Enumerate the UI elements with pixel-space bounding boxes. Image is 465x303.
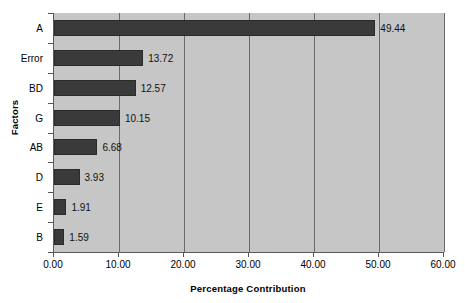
x-axis-title: Percentage Contribution [53, 283, 443, 294]
x-axis-tick-label: 40.00 [300, 259, 325, 270]
x-axis-tick-mark [118, 253, 119, 257]
bar-row[interactable]: 1.91 [54, 199, 444, 215]
x-axis-tick-mark [443, 253, 444, 257]
y-axis-tick-label: A [36, 22, 43, 33]
bar[interactable] [54, 139, 97, 155]
bar-row[interactable]: 13.72 [54, 50, 444, 66]
y-axis-tick-label: B [36, 232, 43, 243]
y-axis-tick-label: E [36, 202, 43, 213]
x-axis-tick-mark [313, 253, 314, 257]
x-axis-tick-mark [248, 253, 249, 257]
bar[interactable] [54, 169, 80, 185]
x-axis-tick-label: 50.00 [365, 259, 390, 270]
x-axis-tick-mark [378, 253, 379, 257]
bar-value-label: 1.59 [69, 232, 88, 243]
bar[interactable] [54, 80, 136, 96]
y-axis-tick-mark [48, 103, 53, 104]
bar-row[interactable]: 6.68 [54, 139, 444, 155]
bar-row[interactable]: 1.59 [54, 229, 444, 245]
y-axis-tick-labels: AErrorBDGABDEB [0, 13, 48, 252]
y-axis-tick-mark [48, 252, 53, 253]
bar-value-label: 10.15 [125, 112, 150, 123]
bar-value-label: 6.68 [102, 142, 121, 153]
bar-value-label: 49.44 [380, 22, 405, 33]
x-axis-tick-label: 10.00 [105, 259, 130, 270]
x-axis-tick-label: 30.00 [235, 259, 260, 270]
x-axis-tick-mark [183, 253, 184, 257]
y-axis-tick-mark [48, 133, 53, 134]
y-axis-tick-mark [48, 222, 53, 223]
bar-value-label: 12.57 [141, 82, 166, 93]
x-axis-tick-label: 20.00 [170, 259, 195, 270]
y-axis-tick-label: AB [30, 142, 43, 153]
bar-value-label: 13.72 [148, 52, 173, 63]
bar-row[interactable]: 10.15 [54, 110, 444, 126]
y-axis-tick-label: G [35, 112, 43, 123]
bar[interactable] [54, 229, 64, 245]
y-axis-tick-label: BD [29, 82, 43, 93]
x-axis-tick-label: 0.00 [43, 259, 62, 270]
y-axis-tick-mark [48, 13, 53, 14]
bar-row[interactable]: 49.44 [54, 20, 444, 36]
gridline [444, 13, 445, 252]
x-axis-tick-mark [53, 253, 54, 257]
bar-value-label: 3.93 [85, 172, 104, 183]
bar[interactable] [54, 50, 143, 66]
y-axis-tick-mark [48, 43, 53, 44]
y-axis-tick-mark [48, 73, 53, 74]
bar-chart: Factors AErrorBDGABDEB 49.4413.7212.5710… [0, 0, 465, 303]
bar-row[interactable]: 3.93 [54, 169, 444, 185]
plot-area: 49.4413.7212.5710.156.683.931.911.59 [53, 13, 444, 253]
x-axis-tick-label: 60.00 [430, 259, 455, 270]
y-axis-tick-label: D [36, 172, 43, 183]
y-axis-tick-label: Error [21, 52, 43, 63]
bar[interactable] [54, 20, 375, 36]
bar-value-label: 1.91 [71, 202, 90, 213]
bar[interactable] [54, 199, 66, 215]
y-axis-tick-mark [48, 162, 53, 163]
y-axis-tick-mark [48, 192, 53, 193]
bar-row[interactable]: 12.57 [54, 80, 444, 96]
bar[interactable] [54, 110, 120, 126]
